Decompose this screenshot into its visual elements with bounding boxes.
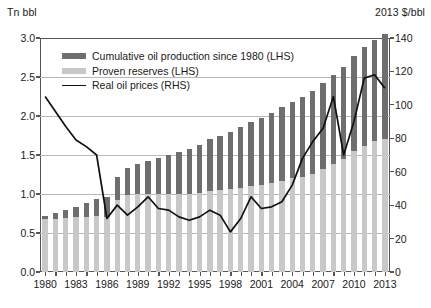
x-axis-tickmark	[333, 272, 334, 276]
right-axis-unit-label: 2013 $/bbl	[375, 6, 425, 18]
x-axis-tickmark	[282, 272, 283, 276]
x-axis-tick-label: 1986	[95, 278, 118, 290]
x-axis-tick-label: 1998	[219, 278, 242, 290]
x-axis-tick-label: 2001	[250, 278, 273, 290]
legend-item-proven-reserves: Proven reserves (LHS)	[62, 65, 294, 77]
x-axis-tick-label: 1983	[64, 278, 87, 290]
x-axis-tickmark	[364, 272, 365, 276]
x-axis-tick-label: 1995	[188, 278, 211, 290]
legend-label-cumulative-production: Cumulative oil production since 1980 (LH…	[92, 50, 294, 62]
x-axis-tickmark	[148, 272, 149, 276]
x-axis-tick-label: 1992	[157, 278, 180, 290]
x-axis-tickmark	[354, 272, 355, 276]
left-axis-tick-label: 1.0	[20, 188, 35, 200]
x-axis-tickmark	[107, 272, 108, 276]
x-axis-tickmark	[251, 272, 252, 276]
x-axis-tickmark	[66, 272, 67, 276]
right-axis-tickmark	[390, 271, 394, 272]
right-axis-tickmark	[390, 104, 394, 105]
x-axis-tick-label: 2004	[281, 278, 304, 290]
x-axis-tickmark	[210, 272, 211, 276]
right-axis-tick-label: 120	[395, 65, 413, 77]
x-axis-tick-label: 2007	[311, 278, 334, 290]
x-axis-tickmark	[241, 272, 242, 276]
right-axis-tickmark	[390, 238, 394, 239]
legend-label-real-oil-prices: Real oil prices (RHS)	[92, 79, 190, 91]
left-axis-tick-label: 3.0	[20, 32, 35, 44]
right-axis-tickmark	[390, 205, 394, 206]
right-axis-tick-label: 80	[395, 132, 407, 144]
x-axis-tickmark	[86, 272, 87, 276]
left-axis-tickmark	[36, 271, 40, 272]
left-axis-tickmark	[36, 193, 40, 194]
left-axis-tick-label: 0.0	[20, 266, 35, 278]
right-axis-tick-label: 40	[395, 199, 407, 211]
x-axis-tickmark	[261, 272, 262, 276]
x-axis-tickmark	[169, 272, 170, 276]
left-axis-tickmark	[36, 154, 40, 155]
x-axis-tickmark	[97, 272, 98, 276]
left-axis-tick-label: 2.0	[20, 110, 35, 122]
x-axis-tickmark	[138, 272, 139, 276]
left-axis-tick-label: 0.5	[20, 227, 35, 239]
x-axis-tickmark	[45, 272, 46, 276]
x-axis-tickmark	[158, 272, 159, 276]
x-axis-tickmark	[230, 272, 231, 276]
legend-item-cumulative-production: Cumulative oil production since 1980 (LH…	[62, 50, 294, 62]
price-line-path	[45, 75, 385, 232]
x-axis-tick-label: 1989	[126, 278, 149, 290]
x-axis-tickmark	[313, 272, 314, 276]
x-axis-tick-label: 1980	[33, 278, 56, 290]
x-axis-tickmark	[117, 272, 118, 276]
legend-swatch-line-icon	[62, 85, 86, 86]
right-axis-tickmark	[390, 71, 394, 72]
left-axis-unit-label: Tn bbl	[7, 6, 37, 18]
left-axis-tick-label: 1.5	[20, 149, 35, 161]
left-axis-tickmark	[36, 37, 40, 38]
left-axis-tickmark	[36, 115, 40, 116]
x-axis-tickmark	[76, 272, 77, 276]
chart-legend: Cumulative oil production since 1980 (LH…	[62, 50, 294, 91]
legend-item-real-oil-prices: Real oil prices (RHS)	[62, 79, 294, 91]
x-axis-tickmark	[220, 272, 221, 276]
x-axis-tickmark	[272, 272, 273, 276]
right-axis-tick-label: 60	[395, 166, 407, 178]
right-axis-tick-label: 140	[395, 32, 413, 44]
right-axis-tick-label: 20	[395, 233, 407, 245]
left-axis-tickmark	[36, 76, 40, 77]
right-axis-tick-label: 0	[395, 266, 401, 278]
x-axis-tickmark	[200, 272, 201, 276]
right-axis-tickmark	[390, 37, 394, 38]
x-axis-tickmark	[344, 272, 345, 276]
x-axis-tickmark	[375, 272, 376, 276]
legend-swatch-light-icon	[62, 68, 86, 74]
x-axis-tick-label: 2013	[373, 278, 396, 290]
x-axis-tickmark	[303, 272, 304, 276]
left-axis-tick-label: 2.5	[20, 71, 35, 83]
x-axis-tickmark	[55, 272, 56, 276]
x-axis-tick-label: 2010	[342, 278, 365, 290]
right-axis-tickmark	[390, 171, 394, 172]
legend-swatch-dark-icon	[62, 53, 86, 59]
left-axis-tickmark	[36, 232, 40, 233]
x-axis-tickmark	[323, 272, 324, 276]
right-axis-tickmark	[390, 138, 394, 139]
right-axis-tick-label: 100	[395, 99, 413, 111]
x-axis-tickmark	[128, 272, 129, 276]
oil-production-reserves-prices-chart: Tn bbl 2013 $/bbl 0.00.51.01.52.02.53.0 …	[0, 0, 431, 308]
x-axis-tickmark	[189, 272, 190, 276]
x-axis-tickmark	[179, 272, 180, 276]
x-axis-tickmark	[385, 272, 386, 276]
legend-label-proven-reserves: Proven reserves (LHS)	[92, 65, 199, 77]
x-axis-tickmark	[292, 272, 293, 276]
